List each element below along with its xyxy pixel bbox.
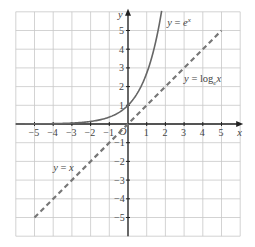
- y-tick-label: −4: [114, 193, 125, 204]
- x-tick-label: 5: [219, 127, 224, 138]
- x-axis-label: x: [236, 127, 242, 138]
- log-label: y = logex: [183, 73, 221, 87]
- x-tick-label: 4: [200, 127, 205, 138]
- y-tick-label: 5: [119, 25, 124, 36]
- x-tick-label: −1: [103, 127, 114, 138]
- x-tick-label: −2: [85, 127, 96, 138]
- x-tick-label: −5: [29, 127, 40, 138]
- y-tick-label: −1: [114, 137, 125, 148]
- identity-label: y = x: [52, 162, 74, 173]
- exp-label: y = ex: [166, 16, 192, 28]
- curves: [16, 11, 222, 218]
- exp-curve: [16, 11, 162, 124]
- y-axis-label: y: [117, 9, 123, 20]
- x-tick-label: −4: [47, 127, 58, 138]
- y-tick-label: −5: [114, 212, 125, 223]
- function-graph: xyO −5−4−3−2−11234554321−1−2−3−4−5 y = e…: [0, 0, 255, 247]
- y-axis-arrow-icon: [125, 9, 131, 16]
- y-tick-label: 3: [119, 62, 124, 73]
- x-tick-label: −3: [66, 127, 77, 138]
- y-tick-label: 4: [119, 44, 124, 55]
- y-tick-label: −2: [114, 156, 125, 167]
- x-tick-label: 1: [144, 127, 149, 138]
- x-tick-label: 3: [181, 127, 186, 138]
- y-tick-label: 2: [119, 81, 124, 92]
- x-tick-label: 2: [162, 127, 167, 138]
- y-tick-label: −3: [114, 175, 125, 186]
